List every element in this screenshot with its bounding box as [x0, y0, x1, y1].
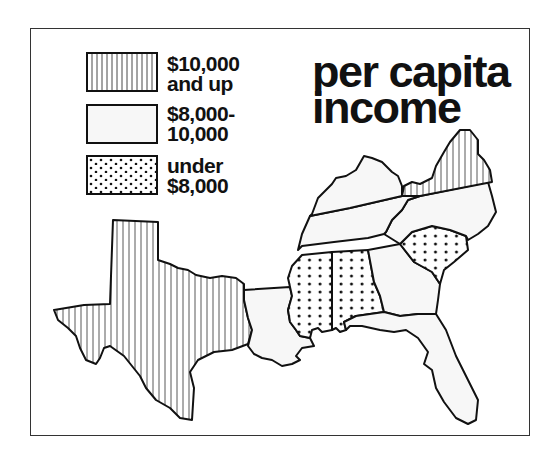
state-texas	[54, 220, 252, 420]
state-florida	[344, 312, 478, 424]
southern-states-map	[0, 0, 555, 458]
state-mississippi	[288, 252, 332, 338]
